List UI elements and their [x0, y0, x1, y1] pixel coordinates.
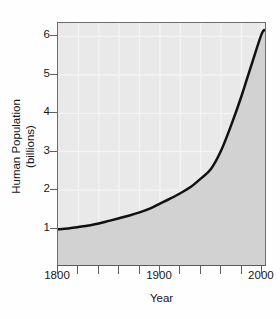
x-tick-mark: [179, 266, 180, 274]
x-tick-label: 2000: [236, 270, 280, 282]
x-tick-mark: [98, 266, 99, 274]
population-chart-figure: 123456 180019002000 Human Population (bi…: [0, 0, 280, 319]
chart-canvas: [58, 23, 266, 266]
x-tick-mark: [220, 266, 221, 274]
area-under-curve: [58, 30, 266, 266]
x-tick-mark: [159, 266, 160, 274]
x-tick-mark: [139, 266, 140, 274]
y-tick-mark: [50, 151, 57, 152]
y-tick-mark: [50, 189, 57, 190]
x-axis-title: Year: [57, 292, 266, 304]
y-tick-label: 6: [28, 29, 50, 41]
x-tick-mark: [200, 266, 201, 274]
x-tick-mark: [241, 266, 242, 274]
x-tick-mark: [261, 266, 262, 274]
y-tick-mark: [50, 74, 57, 75]
y-tick-mark: [50, 112, 57, 113]
y-tick-mark: [50, 35, 57, 36]
x-tick-mark: [57, 266, 58, 274]
x-tick-mark: [118, 266, 119, 274]
plot-area: [57, 22, 266, 266]
y-axis-title: Human Population (billions): [10, 62, 37, 232]
y-tick-mark: [50, 228, 57, 229]
x-tick-mark: [77, 266, 78, 274]
